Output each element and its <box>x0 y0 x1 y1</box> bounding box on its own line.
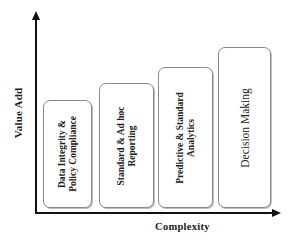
stage-label: Predictive & Standard Analytics <box>175 92 197 184</box>
stage-label: Data Integrity & Policy Compliance <box>57 116 79 192</box>
y-axis-label: Value Add <box>12 88 24 139</box>
stage-label: Standard & Ad hoc Reporting <box>116 106 138 185</box>
stage-reporting-box: Standard & Ad hoc Reporting <box>99 83 154 208</box>
x-axis-arrow-icon <box>272 209 281 217</box>
stage-analytics-box: Predictive & Standard Analytics <box>158 67 213 208</box>
stage-decision-making-box: Decision Making <box>218 47 271 208</box>
x-axis-label: Complexity <box>155 221 210 232</box>
stage-data-integrity-box: Data Integrity & Policy Compliance <box>43 100 92 208</box>
value-complexity-diagram: Value Add Complexity Data Integrity & Po… <box>0 0 298 246</box>
x-axis-line <box>36 212 274 214</box>
y-axis-line <box>35 18 37 214</box>
stage-label: Decision Making <box>239 88 250 168</box>
y-axis-arrow-icon <box>32 11 40 20</box>
